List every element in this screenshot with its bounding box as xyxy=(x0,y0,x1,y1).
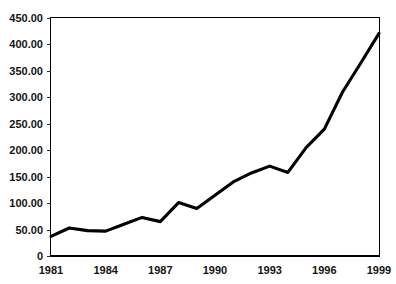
y-axis-tick-label: 150.00 xyxy=(9,171,43,183)
y-axis-tick-label: 50.00 xyxy=(15,224,43,236)
x-axis-tick-label: 1987 xyxy=(148,264,172,276)
y-axis-tick-label: 400.00 xyxy=(9,38,43,50)
x-axis-tick-label: 1993 xyxy=(257,264,281,276)
x-axis-tick-label: 1996 xyxy=(312,264,336,276)
x-axis-tick-label: 1984 xyxy=(93,264,118,276)
y-axis-tick-label: 450.00 xyxy=(9,12,43,24)
y-axis-tick-label: 200.00 xyxy=(9,144,43,156)
x-axis-tick-label: 1981 xyxy=(39,264,63,276)
x-axis-tick-label: 1999 xyxy=(367,264,391,276)
x-axis-tick-label: 1990 xyxy=(203,264,227,276)
y-axis-tick-label: 100.00 xyxy=(9,197,43,209)
chart-canvas: 050.00100.00150.00200.00250.00300.00350.… xyxy=(0,0,396,284)
line-chart: 050.00100.00150.00200.00250.00300.00350.… xyxy=(0,0,396,284)
plot-area-frame xyxy=(51,18,380,257)
y-axis-tick-label: 350.00 xyxy=(9,65,43,77)
y-axis-tick-label: 250.00 xyxy=(9,118,43,130)
y-axis-tick-label: 0 xyxy=(37,250,43,262)
y-axis-tick-label: 300.00 xyxy=(9,91,43,103)
